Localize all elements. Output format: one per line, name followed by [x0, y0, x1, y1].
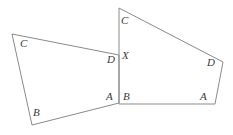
- vertex-label-shared-x: X: [122, 50, 129, 61]
- vertex-label-left-b: B: [33, 107, 40, 118]
- vertex-label-right-b: B: [123, 91, 130, 102]
- geometry-figure: C D X B A C D B A: [0, 0, 233, 135]
- vertex-label-left-d: D: [107, 54, 115, 65]
- left-quadrilateral-shape: [12, 34, 119, 125]
- vertex-label-right-d: D: [207, 57, 215, 68]
- vertex-label-left-a: A: [106, 91, 113, 102]
- vertex-label-left-c: C: [20, 38, 27, 49]
- vertex-label-right-a: A: [200, 91, 207, 102]
- vertex-label-right-c: C: [121, 15, 128, 26]
